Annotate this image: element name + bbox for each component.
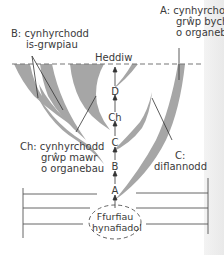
branch-ch-group-3 <box>70 64 110 130</box>
strata-right <box>136 178 208 234</box>
ancestral-forms-line2: hynafiadol <box>92 222 138 233</box>
strata-left <box>23 188 97 238</box>
label-ch: Ch: cynhyrchodd grŵp mawr o organebau <box>20 141 104 174</box>
sequence-ch: Ch <box>108 113 122 123</box>
sequence-c: C <box>108 138 122 148</box>
present-label: Heddiw <box>95 52 132 63</box>
label-a-line3: o organebau <box>160 27 224 38</box>
sequence-a: A <box>108 186 122 196</box>
sequence-b: B <box>108 162 122 172</box>
label-a-line2: grŵp bychan <box>160 16 224 27</box>
label-ch-line1: Ch: cynhyrchodd <box>20 141 104 152</box>
label-b-line2: is-grwpiau <box>11 39 89 50</box>
ancestral-forms-label: Ffurfiau hynafiadol <box>92 211 138 233</box>
label-a: A: cynhyrchodd grŵp bychan o organebau <box>160 5 224 38</box>
sequence-d: D <box>108 87 122 97</box>
label-ch-line2: grŵp mawr <box>20 152 104 163</box>
label-a-line1: A: cynhyrchodd <box>160 5 224 16</box>
label-c: C: diflannodd <box>154 150 207 172</box>
label-b-line1: B: cynhyrchodd <box>11 28 89 39</box>
label-b: B: cynhyrchodd is-grwpiau <box>11 28 89 50</box>
ancestral-forms-line1: Ffurfiau <box>92 211 138 222</box>
branch-a <box>115 64 185 200</box>
label-ch-line3: o organebau <box>20 163 104 174</box>
label-c-line2: diflannodd <box>154 161 207 172</box>
label-c-line1: C: <box>154 150 207 161</box>
